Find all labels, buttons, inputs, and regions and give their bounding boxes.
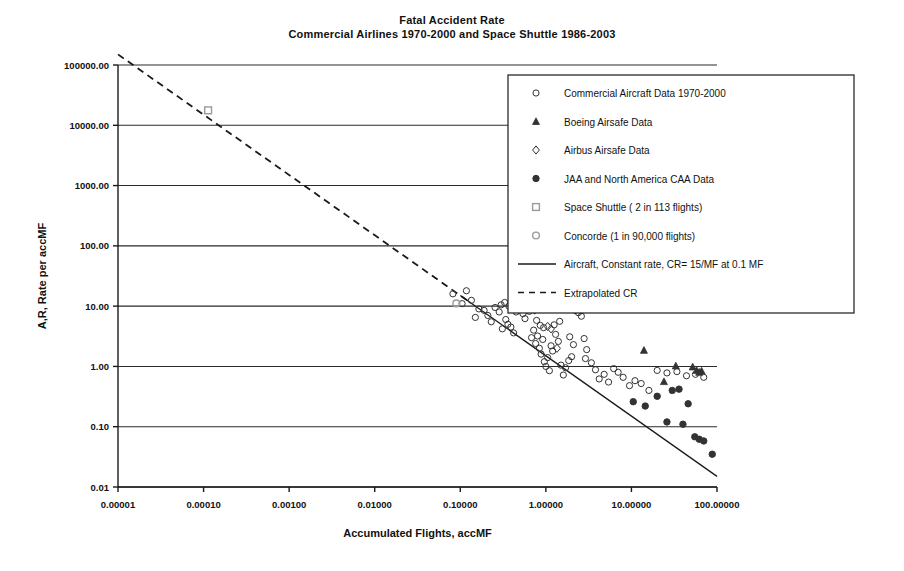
data-point: [640, 347, 647, 354]
data-point: [581, 335, 587, 341]
y-axis-ticks-group: [113, 65, 118, 487]
data-point: [592, 367, 598, 373]
data-point: [701, 438, 707, 444]
legend-item-label: Aircraft, Constant rate, CR= 15/MF at 0.…: [564, 259, 763, 270]
x-axis-ticks-group: [118, 487, 717, 492]
data-point: [605, 379, 611, 385]
x-tick-label: 10.00000: [612, 499, 652, 510]
data-point: [540, 336, 546, 342]
data-point: [536, 345, 542, 351]
data-point: [683, 373, 689, 379]
data-point: [672, 362, 679, 369]
data-point: [555, 338, 561, 344]
data-point: [531, 327, 537, 333]
y-tick-label: 10.00: [85, 301, 109, 312]
chart-container: Fatal Accident Rate Commercial Airlines …: [0, 0, 904, 571]
legend-filled-circle-icon: [533, 175, 539, 181]
data-point: [654, 367, 660, 373]
data-point: [642, 403, 648, 409]
y-tick-label: 100.00: [80, 240, 109, 251]
data-point: [685, 401, 691, 407]
data-point: [601, 371, 607, 377]
chart-plot-svg: 0.000010.000100.001000.010000.100001.000…: [0, 0, 904, 571]
data-point: [664, 419, 670, 425]
data-point: [499, 326, 505, 332]
data-point: [496, 309, 502, 315]
data-point: [463, 288, 469, 294]
data-point: [557, 318, 563, 324]
data-point: [468, 297, 474, 303]
data-point: [205, 107, 212, 114]
series-filled-triangle: [640, 347, 705, 385]
legend-item-label: Airbus Airsafe Data: [564, 145, 650, 156]
y-tick-label: 0.10: [91, 421, 110, 432]
data-point: [596, 376, 602, 382]
series-open-square-gray: [205, 107, 212, 114]
data-point: [660, 378, 667, 385]
legend-item-label: Commercial Aircraft Data 1970-2000: [564, 88, 726, 99]
data-point: [676, 386, 682, 392]
x-tick-label: 0.00100: [272, 499, 306, 510]
data-point: [638, 380, 644, 386]
x-axis-title: Accumulated Flights, accMF: [343, 527, 492, 539]
data-point: [582, 355, 588, 361]
legend-item-label: Boeing Airsafe Data: [564, 117, 653, 128]
x-tick-labels-group: 0.000010.000100.001000.010000.100001.000…: [101, 499, 740, 510]
data-point: [450, 291, 456, 297]
data-point: [472, 314, 478, 320]
data-point: [709, 451, 715, 457]
data-point: [553, 331, 559, 337]
x-tick-label: 1.00000: [529, 499, 563, 510]
y-axis-title: A,R, Rate per accMF: [36, 223, 48, 330]
data-point: [680, 421, 686, 427]
data-point: [584, 347, 590, 353]
x-tick-label: 0.10000: [443, 499, 477, 510]
x-tick-label: 0.01000: [358, 499, 392, 510]
legend-item-label: Extrapolated CR: [564, 288, 637, 299]
data-point: [620, 374, 626, 380]
y-tick-label: 1000.00: [75, 180, 109, 191]
data-point: [615, 369, 621, 375]
data-point: [674, 369, 680, 375]
y-tick-label: 100000.00: [64, 60, 109, 71]
y-tick-label: 10000.00: [69, 120, 109, 131]
series-filled-circle: [630, 386, 715, 457]
data-point: [546, 368, 552, 374]
y-tick-labels-group: 100000.0010000.001000.00100.0010.001.000…: [64, 60, 110, 493]
data-point: [630, 398, 636, 404]
x-tick-label: 0.00001: [101, 499, 136, 510]
data-point: [632, 378, 638, 384]
data-point: [654, 393, 660, 399]
data-point: [488, 319, 494, 325]
y-tick-label: 1.00: [91, 361, 110, 372]
data-point: [664, 370, 670, 376]
x-tick-label: 100.00000: [695, 499, 740, 510]
data-point: [567, 334, 573, 340]
data-point: [669, 387, 675, 393]
legend-box[interactable]: [508, 75, 854, 313]
y-tick-label: 0.01: [91, 482, 110, 493]
legend-item-label: Concorde (1 in 90,000 flights): [564, 231, 695, 242]
data-point: [646, 387, 652, 393]
data-point: [626, 383, 632, 389]
x-tick-label: 0.00010: [186, 499, 220, 510]
legend-item-label: JAA and North America CAA Data: [564, 174, 715, 185]
data-point: [560, 372, 566, 378]
data-point: [570, 342, 576, 348]
legend-group[interactable]: Commercial Aircraft Data 1970-2000Boeing…: [508, 75, 854, 313]
extrapolated-cr-line: [118, 54, 467, 300]
data-point: [528, 335, 534, 341]
legend-item-label: Space Shuttle ( 2 in 113 flights): [564, 202, 702, 213]
data-point: [588, 360, 594, 366]
